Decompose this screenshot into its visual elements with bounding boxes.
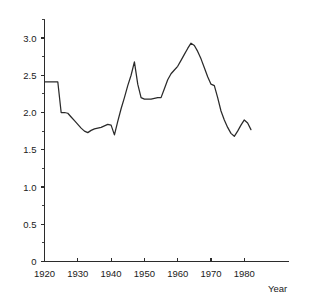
y-tick-label-1.5: 1.5 xyxy=(23,144,36,155)
x-tick-marks xyxy=(45,258,245,262)
chart-container: 00.51.01.52.02.53.0 19201930194019501960… xyxy=(0,0,311,303)
x-tick-label-1980: 1980 xyxy=(234,268,255,279)
line-chart-plot: 00.51.01.52.02.53.0 19201930194019501960… xyxy=(0,0,311,303)
y-tick-label-3.0: 3.0 xyxy=(23,33,36,44)
x-tick-labels: 1920193019401950196019701980 xyxy=(34,268,255,279)
y-tick-label-0: 0 xyxy=(31,256,36,267)
y-tick-label-0.5: 0.5 xyxy=(23,219,36,230)
data-line-series-1 xyxy=(45,43,251,136)
y-tick-label-1.0: 1.0 xyxy=(23,182,36,193)
x-tick-label-1940: 1940 xyxy=(101,268,122,279)
x-tick-label-1930: 1930 xyxy=(67,268,88,279)
y-tick-labels: 00.51.01.52.02.53.0 xyxy=(23,33,36,268)
x-tick-label-1970: 1970 xyxy=(200,268,221,279)
y-tick-label-2.5: 2.5 xyxy=(23,70,36,81)
x-tick-label-1920: 1920 xyxy=(34,268,55,279)
x-axis-title: Year xyxy=(268,283,287,294)
y-tick-label-2.0: 2.0 xyxy=(23,107,36,118)
x-tick-label-1960: 1960 xyxy=(167,268,188,279)
y-tick-marks xyxy=(41,38,45,262)
x-tick-label-1950: 1950 xyxy=(134,268,155,279)
